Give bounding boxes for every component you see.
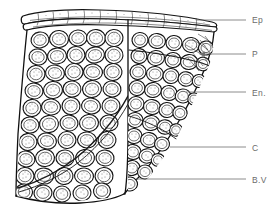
label-c: C — [252, 143, 259, 153]
left-face-cells — [15, 28, 128, 202]
label-en: En. — [252, 88, 266, 98]
tissue-section-diagram: Ep P En. C B.V — [0, 0, 280, 209]
cell-cluster-right-row10 — [122, 176, 138, 191]
epidermis-layer — [21, 10, 217, 32]
label-ep: Ep — [252, 15, 263, 25]
right-face-cells — [122, 32, 214, 192]
cell-cluster-left-row5 — [22, 97, 121, 118]
label-bv: B.V — [252, 175, 267, 185]
figure-root: Ep P En. C B.V — [0, 0, 280, 209]
cell-cluster-left-row9 — [15, 166, 113, 185]
label-p: P — [252, 49, 258, 59]
